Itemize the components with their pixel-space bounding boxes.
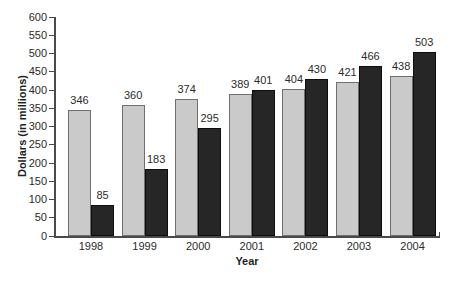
- bar-light-gray-bars-1998: [68, 110, 91, 236]
- y-axis-tick-label: 400: [9, 84, 47, 97]
- bar-value-label: 183: [134, 153, 178, 166]
- x-axis-tick-label: 2001: [225, 240, 279, 253]
- y-axis-tick-label: 0: [9, 230, 47, 243]
- bar-light-gray-bars-1999: [122, 105, 145, 236]
- x-axis-tick-label: 2002: [278, 240, 332, 253]
- bar-dark-bars-2003: [359, 66, 382, 236]
- y-axis-tick-label: 50: [9, 211, 47, 224]
- bar-value-label: 360: [111, 89, 155, 102]
- bar-light-gray-bars-2004: [390, 76, 413, 236]
- y-axis-tick-label: 350: [9, 102, 47, 115]
- bar-value-label: 346: [58, 94, 102, 107]
- bar-dark-bars-2004: [413, 52, 436, 236]
- y-axis-tick-label: 200: [9, 157, 47, 170]
- y-axis-tick-label: 500: [9, 47, 47, 60]
- x-axis-tick-label: 2000: [171, 240, 225, 253]
- bar-light-gray-bars-2003: [336, 82, 359, 236]
- bar-value-label: 295: [188, 112, 232, 125]
- x-axis-tick-label: 2004: [386, 240, 440, 253]
- bar-dark-bars-1998: [91, 205, 114, 236]
- bar-value-label: 503: [402, 36, 446, 49]
- x-axis-tick-label: 2003: [332, 240, 386, 253]
- y-axis-tick-label: 150: [9, 175, 47, 188]
- y-axis-line: [54, 17, 56, 236]
- y-axis-tick-label: 550: [9, 29, 47, 42]
- y-axis-tick-label: 100: [9, 193, 47, 206]
- x-axis-tick-label: 1999: [118, 240, 172, 253]
- bar-dark-bars-2001: [252, 90, 275, 236]
- x-axis-tick-label: 1998: [64, 240, 118, 253]
- y-axis-tick-label: 600: [9, 11, 47, 24]
- bar-dark-bars-1999: [145, 169, 168, 236]
- x-axis-end-tick: [439, 232, 441, 236]
- bar-dark-bars-2002: [305, 79, 328, 236]
- bar-light-gray-bars-2001: [229, 94, 252, 236]
- y-axis-tick-label: 250: [9, 138, 47, 151]
- bar-light-gray-bars-2002: [282, 89, 305, 236]
- bar-dark-bars-2000: [198, 128, 221, 236]
- x-axis-line: [54, 236, 440, 238]
- bar-value-label: 374: [165, 83, 209, 96]
- y-axis-tick-label: 450: [9, 65, 47, 78]
- bar-chart-figure: Dollars (in millions) Year 0501001502002…: [0, 0, 453, 281]
- y-axis-tick-label: 300: [9, 120, 47, 133]
- bar-value-label: 85: [81, 189, 125, 202]
- x-axis-title: Year: [197, 255, 297, 267]
